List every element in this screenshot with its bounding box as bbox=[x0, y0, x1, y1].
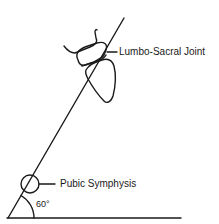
lumbo-sacral-joint-label: Lumbo-Sacral Joint bbox=[119, 47, 205, 57]
pubic-symphysis-label: Pubic Symphysis bbox=[60, 179, 136, 189]
sacrum-outline bbox=[86, 59, 116, 102]
pelvic-inclination-diagram bbox=[0, 0, 219, 224]
angle-arc bbox=[21, 196, 34, 219]
angle-label: 60° bbox=[36, 200, 50, 209]
pubic-symphysis-circle bbox=[21, 175, 39, 193]
